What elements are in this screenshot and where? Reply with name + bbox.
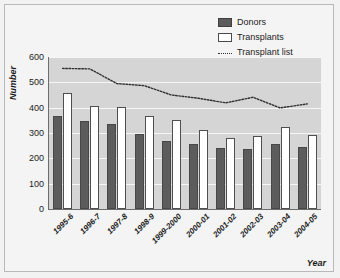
x-tick-label: 1997-8 (105, 212, 129, 236)
bar-donors (135, 134, 144, 209)
x-tick-label: 2004-05 (293, 212, 320, 239)
bar-group (243, 57, 262, 209)
bar-group (189, 57, 208, 209)
filled-square-swatch-icon (218, 18, 232, 27)
bar-group (53, 57, 72, 209)
y-tick-label: 100 (4, 179, 44, 189)
x-tick-label: 2003-04 (265, 212, 292, 239)
x-tick-label: 2000-01 (184, 212, 211, 239)
bar-donors (107, 124, 116, 209)
bar-groups (49, 57, 321, 209)
bar-transplants (117, 107, 126, 209)
x-tick-label: 1996-7 (78, 212, 102, 236)
y-tick-label: 400 (4, 103, 44, 113)
bar-donors (80, 121, 89, 209)
y-tick-label: 0 (4, 204, 44, 214)
x-axis-ticks: 1995-61996-71997-81998-91999-20002000-01… (48, 212, 320, 260)
x-tick-label: 2001-02 (211, 212, 238, 239)
bar-donors (216, 148, 225, 209)
y-axis-ticks: 0100200300400500600 (0, 57, 44, 209)
bar-donors (53, 116, 62, 209)
bar-donors (298, 147, 307, 209)
chart-figure: Donors Transplants Transplant list Numbe… (0, 0, 340, 278)
bar-group (271, 57, 290, 209)
bar-group (135, 57, 154, 209)
y-tick-label: 300 (4, 128, 44, 138)
bar-group (162, 57, 181, 209)
plot-area (48, 57, 321, 210)
bar-transplants (63, 93, 72, 209)
bar-group (80, 57, 99, 209)
chart-legend: Donors Transplants Transplant list (218, 16, 330, 61)
bar-transplants (145, 116, 154, 209)
legend-label-donors: Donors (237, 17, 266, 28)
x-tick-label: 1995-6 (51, 212, 75, 236)
x-tick-label: 1998-9 (133, 212, 157, 236)
x-axis-title: Year (307, 258, 326, 268)
bar-transplants (281, 127, 290, 209)
bar-group (216, 57, 235, 209)
bar-group (107, 57, 126, 209)
legend-item-donors: Donors (218, 16, 330, 29)
legend-label-transplants: Transplants (237, 32, 284, 43)
legend-item-transplants: Transplants (218, 31, 330, 44)
bar-transplants (226, 138, 235, 209)
bar-transplants (253, 136, 262, 209)
y-tick-label: 600 (4, 52, 44, 62)
y-tick-label: 200 (4, 153, 44, 163)
bar-donors (243, 149, 252, 209)
bar-transplants (308, 135, 317, 209)
x-tick-label: 2002-03 (238, 212, 265, 239)
bar-transplants (199, 130, 208, 209)
bar-transplants (172, 120, 181, 209)
y-tick-label: 500 (4, 77, 44, 87)
bar-group (298, 57, 317, 209)
bar-donors (189, 144, 198, 209)
bar-transplants (90, 106, 99, 209)
outlined-square-swatch-icon (218, 33, 232, 42)
bar-donors (162, 141, 171, 209)
bar-donors (271, 144, 280, 209)
dotted-line-swatch-icon (218, 53, 232, 54)
